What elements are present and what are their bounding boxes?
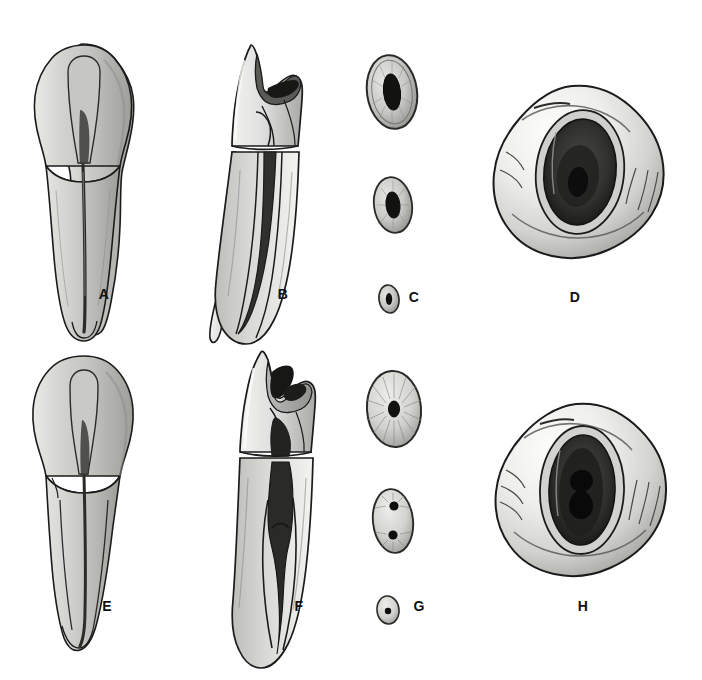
section-c3-canal [386, 293, 392, 305]
section-g2-canal-1 [389, 501, 398, 510]
section-g3-canal [385, 608, 391, 614]
section-g2-canal-2 [388, 530, 397, 539]
panel-label-g: G [413, 598, 424, 614]
panel-label-e: E [102, 598, 112, 614]
figure-plate: A B [0, 0, 702, 680]
panel-label-a: A [99, 286, 109, 302]
anatomy-illustration: A B [0, 0, 702, 680]
panel-label-b: B [278, 286, 288, 302]
panel-label-d: D [570, 289, 580, 305]
section-g1-canal [389, 401, 400, 417]
panel-label-h: H [578, 598, 588, 614]
panel-label-c: C [409, 289, 419, 305]
panel-label-f: F [295, 598, 304, 614]
